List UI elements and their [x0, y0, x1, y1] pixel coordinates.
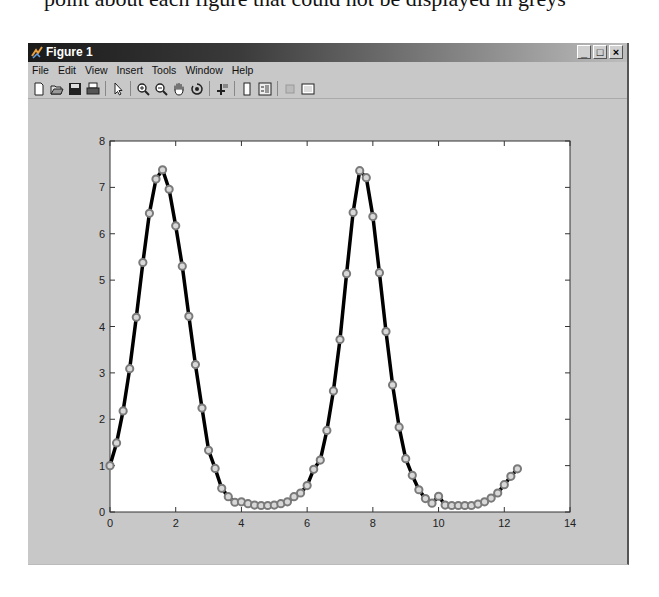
- menu-window[interactable]: Window: [181, 62, 227, 78]
- data-point-marker: [402, 455, 409, 462]
- data-point-marker: [284, 498, 291, 505]
- figure-canvas: 02468101214012345678: [28, 100, 627, 564]
- data-point-marker: [350, 209, 357, 216]
- data-point-marker: [409, 472, 416, 479]
- toolbar-separator: [130, 81, 131, 96]
- page-caption-text: point about each figure that could not b…: [0, 0, 659, 12]
- rotate-3d-button[interactable]: [189, 81, 205, 97]
- hide-plot-tools-icon: [283, 82, 297, 96]
- close-button[interactable]: ×: [609, 45, 623, 59]
- save-icon: [68, 82, 82, 96]
- data-point-marker: [356, 167, 363, 174]
- data-point-marker: [185, 313, 192, 320]
- data-point-marker: [494, 489, 501, 496]
- y-tick-label: 2: [99, 413, 105, 425]
- toolbar-separator: [105, 81, 106, 96]
- y-tick-label: 6: [99, 228, 105, 240]
- edit-plot-arrow-icon: [111, 82, 125, 96]
- toolbar-separator: [277, 81, 278, 96]
- colorbar-button[interactable]: [239, 81, 255, 97]
- zoom-out-button[interactable]: [153, 81, 169, 97]
- data-point-marker: [192, 361, 199, 368]
- data-point-marker: [501, 481, 508, 488]
- figure-toolbar: [28, 79, 627, 99]
- save-button[interactable]: [67, 81, 83, 97]
- data-point-marker: [336, 336, 343, 343]
- new-figure-button[interactable]: [31, 81, 47, 97]
- y-tick-label: 3: [99, 367, 105, 379]
- toolbar-separator: [209, 81, 210, 96]
- data-point-marker: [343, 270, 350, 277]
- data-point-marker: [126, 365, 133, 372]
- zoom-in-button[interactable]: [135, 81, 151, 97]
- data-point-marker: [310, 466, 317, 473]
- data-point-marker: [113, 439, 120, 446]
- window-title: Figure 1: [46, 45, 93, 59]
- line-chart[interactable]: 02468101214012345678: [28, 100, 627, 564]
- pan-button[interactable]: [171, 81, 187, 97]
- data-point-marker: [179, 263, 186, 270]
- data-point-marker: [369, 213, 376, 220]
- data-point-marker: [507, 473, 514, 480]
- data-point-marker: [428, 500, 435, 507]
- data-cursor-icon: [215, 82, 229, 96]
- toolbar-separator: [234, 81, 235, 96]
- new-figure-icon: [32, 82, 46, 96]
- data-point-marker: [225, 493, 232, 500]
- data-point-marker: [159, 166, 166, 173]
- data-point-marker: [488, 494, 495, 501]
- rotate-3d-icon: [190, 82, 204, 96]
- x-tick-label: 14: [564, 517, 576, 529]
- menu-view[interactable]: View: [81, 62, 113, 78]
- x-tick-label: 2: [173, 517, 179, 529]
- legend-button[interactable]: [257, 81, 273, 97]
- figure-window: Figure 1 _ □ × File Edit View Insert Too…: [28, 43, 629, 565]
- menu-edit[interactable]: Edit: [54, 62, 81, 78]
- menu-tools[interactable]: Tools: [148, 62, 182, 78]
- legend-icon: [258, 82, 272, 96]
- data-point-marker: [304, 482, 311, 489]
- menu-help[interactable]: Help: [228, 62, 259, 78]
- y-tick-label: 8: [99, 135, 105, 147]
- data-point-marker: [205, 447, 212, 454]
- open-file-icon: [50, 82, 64, 96]
- y-tick-label: 1: [99, 460, 105, 472]
- x-tick-label: 12: [498, 517, 510, 529]
- data-point-marker: [133, 314, 140, 321]
- show-plot-tools-icon: [301, 82, 315, 96]
- data-cursor-button[interactable]: [214, 81, 230, 97]
- menu-insert[interactable]: Insert: [113, 62, 148, 78]
- maximize-button[interactable]: □: [593, 45, 607, 59]
- x-tick-label: 6: [304, 517, 310, 529]
- colorbar-icon: [240, 82, 254, 96]
- x-tick-label: 8: [370, 517, 376, 529]
- data-point-marker: [297, 489, 304, 496]
- data-point-marker: [106, 462, 113, 469]
- hide-plot-tools-button[interactable]: [282, 81, 298, 97]
- data-point-marker: [376, 269, 383, 276]
- data-point-marker: [389, 381, 396, 388]
- edit-plot-button[interactable]: [110, 81, 126, 97]
- title-bar[interactable]: Figure 1 _ □ ×: [28, 43, 627, 62]
- y-tick-label: 4: [99, 321, 105, 333]
- minimize-button[interactable]: _: [577, 45, 591, 59]
- data-point-marker: [514, 465, 521, 472]
- data-point-marker: [212, 465, 219, 472]
- data-point-marker: [382, 328, 389, 335]
- open-file-button[interactable]: [49, 81, 65, 97]
- matlab-figure-icon: [31, 46, 44, 59]
- x-tick-label: 4: [238, 517, 244, 529]
- data-point-marker: [415, 486, 422, 493]
- menu-bar: File Edit View Insert Tools Window Help: [28, 62, 627, 78]
- menu-file[interactable]: File: [28, 62, 54, 78]
- data-point-marker: [139, 259, 146, 266]
- x-tick-label: 10: [432, 517, 444, 529]
- y-tick-label: 7: [99, 181, 105, 193]
- print-button[interactable]: [85, 81, 101, 97]
- show-plot-tools-button[interactable]: [300, 81, 316, 97]
- data-point-marker: [172, 222, 179, 229]
- data-point-marker: [323, 427, 330, 434]
- data-point-marker: [396, 424, 403, 431]
- zoom-out-icon: [154, 82, 168, 96]
- data-point-marker: [435, 493, 442, 500]
